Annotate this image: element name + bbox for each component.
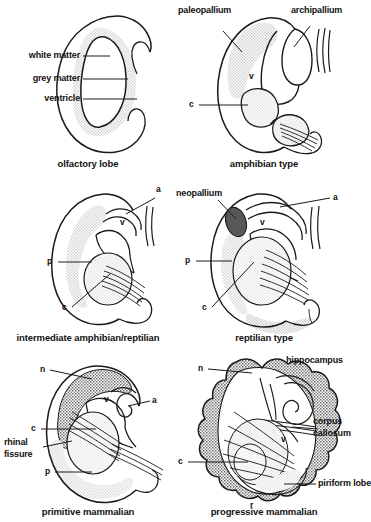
panel-amphibian-type: paleopallium archipallium v c amphibian … [176,0,352,174]
label-n: n [198,363,203,373]
olfactory-lobe-drawing [0,0,176,174]
archipallium-extension [317,28,330,73]
panel-intermediate-amphibian-reptilian: a v p c intermediate amphibian/reptilian [0,174,176,348]
panel-reptilian-type: neopallium a v p c reptilian type [176,174,352,348]
ventral-notch [136,470,158,492]
dorsal-outline [258,194,291,209]
caption-reptilian-type: reptilian type [176,332,352,343]
label-a: a [152,395,157,405]
label-grey-matter: grey matter [0,73,80,84]
intermediate-drawing [0,174,176,348]
striatum-oval [84,253,132,305]
label-hippocampus: hippocampus [286,355,343,366]
label-v: v [249,71,254,81]
label-c: c [189,99,194,109]
dorsal-lamina-outer [246,203,306,235]
label-paleopallium: paleopallium [178,5,231,16]
caption-primitive-mammalian: primitive mammalian [0,506,176,517]
label-v: v [104,394,109,404]
ventral-notch [128,109,145,141]
label-rhinal-fissure-line1: rhinal [4,437,28,448]
caption-intermediate: intermediate amphibian/reptilian [0,332,176,343]
label-archipallium: archipallium [291,5,342,16]
dorsal-lamina-inner [248,212,302,240]
label-rhinal-fissure-line2: fissure [4,449,32,460]
dorsal-outline [104,194,133,210]
dorsal-extension [311,206,320,249]
label-corpus-line1: corpus [313,416,342,427]
label-piriform-lobe: piriform lobe [318,478,371,489]
primitive-mammalian-drawing [0,348,176,522]
label-a: a [156,184,161,194]
panel-primitive-mammalian: n a v c rhinal fissure p primitive mamma… [0,348,176,522]
label-v: v [260,217,265,227]
label-white-matter: white matter [0,50,80,61]
ventricle-side [125,428,136,447]
label-c: c [178,456,183,466]
label-a: a [333,192,338,202]
panel-olfactory-lobe: white matter grey matter ventricle olfac… [0,0,176,174]
label-v: v [120,217,125,227]
hippocampal-curl [117,394,139,418]
paleopallium-region [228,22,278,98]
label-c: c [202,302,207,312]
label-p: p [47,256,52,266]
ventral-lobe [273,115,309,146]
ventricle-roof [96,231,130,257]
leader-a [280,198,330,207]
label-n: n [40,364,45,374]
label-c: c [62,302,67,312]
caption-amphibian-type: amphibian type [176,158,352,169]
label-neopallium: neopallium [176,188,222,199]
archipallium-vesicle [282,29,312,85]
label-c: c [31,423,36,433]
label-p: p [45,466,50,476]
dorsal-extension [146,206,154,246]
neopallium-spot [222,205,250,240]
panel-progressive-mammalian: n hippocampus corpus callosum v c pirifo… [176,348,352,522]
reptilian-type-drawing [176,174,352,348]
label-v: v [281,434,286,444]
dorsal-notch [132,42,150,74]
caption-progressive-mammalian: progressive mammalian [176,506,352,517]
label-p: p [185,255,190,265]
label-corpus-line2: callosum [313,428,351,439]
amphibian-type-drawing [176,0,352,174]
caption-olfactory-lobe: olfactory lobe [0,158,176,169]
label-ventricle: ventricle [0,93,80,104]
